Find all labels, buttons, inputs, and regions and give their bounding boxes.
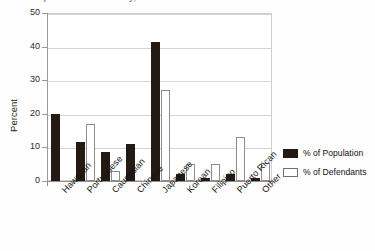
legend-swatch-icon [283, 168, 298, 177]
legend-item: % of Defendants [283, 167, 367, 177]
legend-item: % of Population [283, 148, 367, 158]
x-axis-tick [222, 181, 223, 186]
x-axis-tick [172, 181, 173, 186]
legend-label: % of Population [303, 148, 363, 158]
x-axis-label-filipino: Filipino [210, 167, 237, 195]
x-axis-tick [272, 181, 273, 186]
chart-legend: % of Population% of Defendants [283, 148, 367, 186]
x-axis-tick [197, 181, 198, 186]
x-axis-tick [72, 181, 73, 186]
x-axis-tick [47, 181, 48, 186]
bar-chart: Comparison of Ethnicity, 01020304050 Per… [0, 0, 375, 251]
y-axis-tick [42, 147, 47, 148]
y-axis-tick [42, 80, 47, 81]
x-axis-category-labels: HawaiianPortugueseCaucasianChineseJapane… [0, 0, 375, 251]
legend-swatch-icon [283, 149, 298, 158]
x-axis-tick [247, 181, 248, 186]
x-axis-tick [122, 181, 123, 186]
x-axis-tick [97, 181, 98, 186]
y-axis-tick [42, 114, 47, 115]
y-axis-tick [42, 47, 47, 48]
y-axis-tick [42, 13, 47, 14]
x-axis-tick [147, 181, 148, 186]
legend-label: % of Defendants [303, 167, 367, 177]
